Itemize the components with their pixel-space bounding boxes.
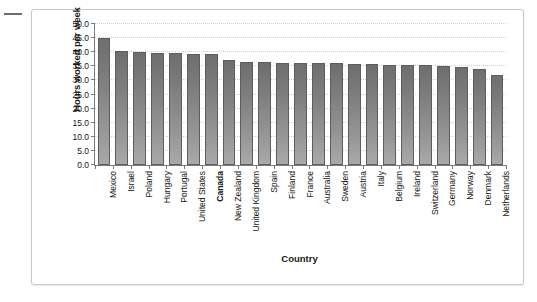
bar-slot — [452, 24, 470, 165]
bar-slot — [488, 24, 506, 165]
x-tick-label: Poland — [144, 171, 154, 197]
x-tick-mark — [452, 165, 453, 169]
x-tick-label: Netherlands — [501, 171, 511, 217]
x-tick-label: Canada — [215, 171, 225, 202]
bar[interactable] — [258, 62, 271, 165]
plot-area: 0.05.010.015.020.025.030.035.040.045.050… — [94, 24, 506, 166]
x-tick-label: Israel — [126, 171, 136, 192]
bar[interactable] — [491, 75, 504, 165]
x-tick-mark — [327, 165, 328, 169]
bar[interactable] — [276, 63, 289, 165]
bar-slot — [113, 24, 131, 165]
bar[interactable] — [151, 53, 164, 165]
x-tick-mark — [184, 165, 185, 169]
x-tick-label: Norway — [465, 171, 475, 200]
bar-slot — [345, 24, 363, 165]
bar-slot — [184, 24, 202, 165]
bar[interactable] — [348, 64, 361, 165]
bar-slot — [399, 24, 417, 165]
x-tick-label: Hungary — [162, 171, 172, 203]
x-tick-mark — [345, 165, 346, 169]
bar[interactable] — [312, 63, 325, 165]
bar-slot — [166, 24, 184, 165]
bar[interactable] — [187, 54, 200, 165]
x-tick-label: Finland — [287, 171, 297, 199]
bar[interactable] — [473, 69, 486, 165]
y-tick-label: 20.0 — [72, 104, 89, 114]
x-tick-label: Australia — [322, 171, 332, 204]
x-tick-label: Germany — [447, 171, 457, 206]
bar[interactable] — [383, 65, 396, 165]
x-tick-mark — [131, 165, 132, 169]
x-tick-label: Portugal — [179, 171, 189, 203]
chart-figure: Hours worked per week 0.05.010.015.020.0… — [0, 0, 537, 302]
bar-slot — [256, 24, 274, 165]
y-tick-label: 30.0 — [72, 75, 89, 85]
bar[interactable] — [115, 51, 128, 165]
bar-slot — [131, 24, 149, 165]
x-tick-mark — [238, 165, 239, 169]
x-tick-mark — [292, 165, 293, 169]
x-tick-mark — [95, 165, 96, 169]
bar-slot — [238, 24, 256, 165]
x-tick-label: Mexico — [108, 171, 118, 198]
y-tick-label: 45.0 — [72, 33, 89, 43]
bar[interactable] — [401, 65, 414, 165]
x-tick-mark — [363, 165, 364, 169]
x-tick-label: Ireland — [412, 171, 422, 197]
x-tick-mark — [470, 165, 471, 169]
bar[interactable] — [294, 63, 307, 165]
corner-dash-mark — [4, 13, 22, 15]
x-tick-mark — [256, 165, 257, 169]
bar[interactable] — [98, 38, 111, 165]
x-tick-mark — [435, 165, 436, 169]
bar[interactable] — [330, 63, 343, 165]
y-tick-label: 40.0 — [72, 47, 89, 57]
bar-slot — [381, 24, 399, 165]
bar-slot — [363, 24, 381, 165]
bar[interactable] — [240, 62, 253, 165]
bar-slot — [327, 24, 345, 165]
y-tick-label: 50.0 — [72, 19, 89, 29]
bar-slot — [149, 24, 167, 165]
x-tick-mark — [149, 165, 150, 169]
y-tick-label: 15.0 — [72, 118, 89, 128]
bar-slot — [417, 24, 435, 165]
bar-slot — [309, 24, 327, 165]
x-tick-label: Spain — [269, 171, 279, 193]
bar-slot — [292, 24, 310, 165]
x-tick-label: Denmark — [483, 171, 493, 205]
bar[interactable] — [169, 53, 182, 165]
bar[interactable] — [437, 66, 450, 165]
x-axis-title: Country — [94, 253, 505, 264]
bar[interactable] — [366, 64, 379, 165]
bar-slot — [220, 24, 238, 165]
x-tick-label: Switzerland — [430, 171, 440, 215]
x-tick-mark — [488, 165, 489, 169]
bar[interactable] — [205, 54, 218, 165]
bar[interactable] — [419, 65, 432, 165]
x-tick-label: Italy — [376, 171, 386, 187]
x-tick-mark — [506, 165, 507, 169]
bar[interactable] — [223, 60, 236, 165]
bar-slot — [95, 24, 113, 165]
x-tick-mark — [274, 165, 275, 169]
x-tick-mark — [166, 165, 167, 169]
x-tick-label: France — [305, 171, 315, 197]
x-tick-label: Austria — [358, 171, 368, 197]
bar[interactable] — [133, 52, 146, 165]
x-tick-mark — [399, 165, 400, 169]
x-tick-mark — [202, 165, 203, 169]
x-tick-mark — [417, 165, 418, 169]
bar-slot — [274, 24, 292, 165]
x-tick-label: United Kingdom — [251, 171, 261, 231]
x-tick-label: Sweden — [340, 171, 350, 202]
x-tick-mark — [309, 165, 310, 169]
x-tick-mark — [381, 165, 382, 169]
chart-frame: Hours worked per week 0.05.010.015.020.0… — [31, 9, 524, 285]
y-tick-label: 5.0 — [77, 146, 89, 156]
x-tick-label: New Zealand — [233, 171, 243, 221]
x-tick-mark — [220, 165, 221, 169]
x-tick-mark — [113, 165, 114, 169]
bar[interactable] — [455, 67, 468, 165]
